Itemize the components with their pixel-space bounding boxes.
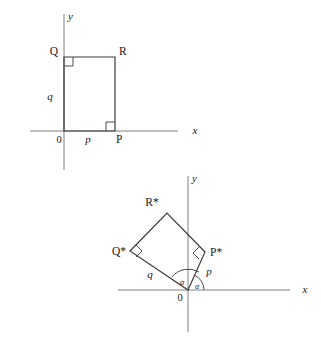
top-origin-label: 0 [56, 134, 61, 145]
right-angle-mark-at-p-star [193, 247, 199, 259]
bottom-side-label-q: q [147, 268, 153, 280]
top-rectangle [64, 57, 115, 131]
bottom-x-axis-label: x [302, 283, 308, 295]
top-side-label-q: q [47, 90, 53, 102]
geometry-figure: x y Q R P 0 q p [0, 0, 321, 342]
right-angle-mark-at-q [64, 57, 73, 66]
top-vertex-label-r: R [119, 45, 127, 57]
top-side-label-p: p [84, 133, 91, 145]
figure-canvas: x y Q R P 0 q p [0, 0, 321, 342]
right-angle-mark-at-p [106, 122, 115, 131]
bottom-y-axis-label: y [191, 172, 197, 184]
top-vertex-label-p: P [116, 133, 122, 145]
diagram-bottom: x y R* Q* P* 0 q p α α [112, 172, 308, 332]
bottom-vertex-label-p-star: P* [210, 246, 222, 258]
bottom-origin-label: 0 [177, 292, 182, 303]
bottom-vertex-label-r-star: R* [145, 196, 159, 208]
bottom-vertex-label-q-star: Q* [112, 245, 126, 257]
top-vertex-label-q: Q [50, 45, 59, 57]
bottom-side-label-p: p [205, 265, 212, 277]
top-x-axis-label: x [192, 124, 198, 136]
top-y-axis-label: y [67, 10, 73, 22]
diagram-top: x y Q R P 0 q p [30, 10, 198, 170]
bottom-angle-label-interior: α [180, 278, 185, 287]
